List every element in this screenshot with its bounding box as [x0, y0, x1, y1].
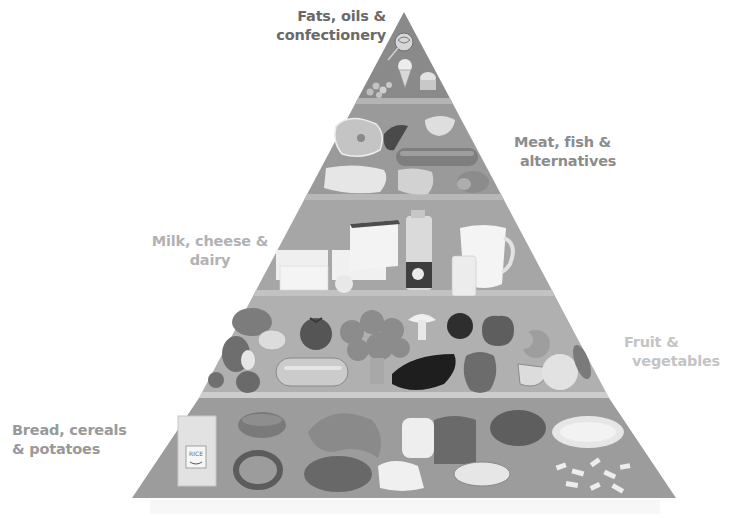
- label-line: & potatoes: [12, 440, 127, 459]
- tier-bread-cereals: RICE: [132, 398, 676, 498]
- label-line: confectionery: [226, 26, 386, 45]
- label-fruit-vegetables: Fruit & vegetables: [624, 333, 720, 371]
- rice-bag-text: RICE: [189, 450, 203, 457]
- food-pyramid-diagram: RICE: [0, 0, 734, 518]
- base-reflection: [150, 500, 660, 514]
- label-line: Bread, cereals: [12, 421, 127, 440]
- label-line: Milk, cheese &: [145, 232, 275, 251]
- label-meat-fish-alternatives: Meat, fish & alternatives: [514, 133, 616, 171]
- tier-milk: [253, 200, 555, 296]
- label-line: Fruit &: [624, 333, 720, 352]
- label-milk-cheese-dairy: Milk, cheese & dairy: [145, 232, 275, 270]
- tier-meat: [304, 104, 504, 200]
- label-line: Meat, fish &: [514, 133, 616, 152]
- label-line: Fats, oils &: [226, 7, 386, 26]
- label-fats-oils-confectionery: Fats, oils & confectionery: [226, 7, 386, 45]
- label-line: alternatives: [514, 152, 616, 171]
- label-line: vegetables: [632, 352, 720, 371]
- tier-fruit-vegetables: [199, 296, 609, 398]
- label-bread-cereals-potatoes: Bread, cereals & potatoes: [12, 421, 127, 459]
- label-line: dairy: [145, 251, 275, 270]
